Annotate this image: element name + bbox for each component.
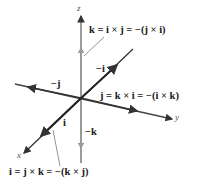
i-equation: i = j × k = −(k × j) xyxy=(9,166,89,177)
z-axis-label: z xyxy=(77,3,81,13)
y-axis-label: y xyxy=(175,112,179,122)
j-equation: j = k × i = −(i × k) xyxy=(100,90,179,101)
k-equation: k = i × j = −(j × i) xyxy=(89,24,166,35)
neg-k-label: −k xyxy=(85,126,97,137)
k-leader-line xyxy=(84,37,104,56)
i-vector xyxy=(41,98,81,136)
cross-product-diagram: z y x k = i × j = −(j × i) j = k × i = −… xyxy=(0,0,202,185)
neg-j-label: −j xyxy=(51,78,60,89)
i-label: i xyxy=(63,117,66,128)
neg-i-label: −i xyxy=(96,63,105,74)
i-leader-line xyxy=(53,130,60,166)
x-axis-label: x xyxy=(17,150,21,160)
